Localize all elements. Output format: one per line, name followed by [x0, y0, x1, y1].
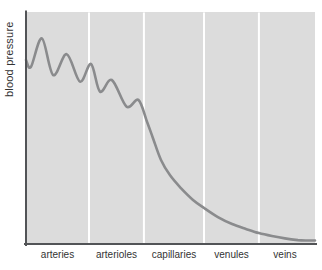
- x-label-arterioles: arterioles: [96, 249, 137, 260]
- x-label-capillaries: capillaries: [152, 249, 196, 260]
- blood-pressure-figure: blood pressure arteries arterioles capil…: [0, 0, 322, 270]
- chart-canvas: [0, 0, 322, 270]
- x-label-veins: veins: [273, 249, 296, 260]
- x-label-venules: venules: [214, 249, 248, 260]
- x-label-arteries: arteries: [41, 249, 74, 260]
- y-axis-label: blood pressure: [3, 21, 15, 97]
- plot-area: [26, 12, 315, 244]
